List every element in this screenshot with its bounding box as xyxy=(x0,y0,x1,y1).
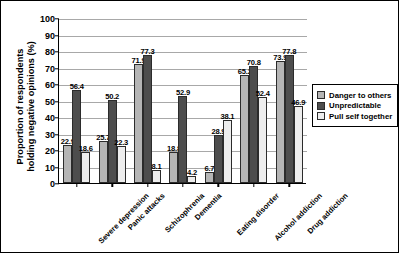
bar-group: 6.728.938.1 xyxy=(201,18,236,183)
legend-label: Danger to others xyxy=(329,91,391,100)
x-axis-tick-mark xyxy=(218,183,219,187)
bar-value-label: 38.1 xyxy=(220,112,234,121)
legend-label: Unpredictable xyxy=(329,101,381,110)
bar: 65.2 xyxy=(240,75,249,183)
bar-group: 71.977.38.1 xyxy=(130,18,165,183)
bar-value-label: 52.9 xyxy=(176,88,190,97)
x-axis-tick-mark xyxy=(289,183,290,187)
legend-item: Danger to others xyxy=(317,91,392,100)
bar: 18.6 xyxy=(81,152,90,183)
bar: 71.9 xyxy=(134,64,143,183)
x-axis-tick-mark xyxy=(111,183,112,187)
y-axis-tick-label: 10 xyxy=(45,163,55,173)
bar: 28.9 xyxy=(214,135,223,183)
bar: 8.1 xyxy=(152,170,161,183)
x-axis-tick-mark xyxy=(182,183,183,187)
bar: 46.9 xyxy=(294,106,303,183)
bar-value-label: 22.3 xyxy=(114,138,128,147)
y-axis-tick-label: 100 xyxy=(40,14,55,24)
y-axis-tick-mark xyxy=(55,183,59,184)
bar: 38.1 xyxy=(223,120,232,183)
bar: 70.8 xyxy=(249,66,258,183)
bar-value-label: 56.4 xyxy=(70,82,84,91)
bar: 73.9 xyxy=(276,61,285,183)
x-axis-tick-mark xyxy=(147,183,148,187)
bar: 77.8 xyxy=(285,55,294,183)
legend-item: Pull self together xyxy=(317,112,392,121)
bar: 52.4 xyxy=(258,97,267,183)
y-axis-tick-label: 90 xyxy=(45,31,55,41)
y-axis-title: Proportion of respondents holding negati… xyxy=(15,19,36,194)
bar-value-label: 8.1 xyxy=(152,162,162,171)
bar-value-label: 77.8 xyxy=(282,47,296,56)
bar: 56.4 xyxy=(72,90,81,183)
legend-swatch xyxy=(317,112,325,120)
x-axis-label: Eating disorder xyxy=(235,191,281,237)
bar-groups: 22.956.418.625.750.222.371.977.38.118.85… xyxy=(59,18,307,183)
x-axis-tick-mark xyxy=(76,183,77,187)
bar: 6.7 xyxy=(205,172,214,183)
legend-swatch xyxy=(317,102,325,110)
bar-value-label: 46.9 xyxy=(291,98,305,107)
y-axis-tick-label: 20 xyxy=(45,146,55,156)
y-axis-tick-label: 60 xyxy=(45,80,55,90)
legend: Danger to othersUnpredictablePull self t… xyxy=(312,84,398,127)
y-axis-tick-label: 40 xyxy=(45,113,55,123)
bar: 25.7 xyxy=(99,141,108,183)
bar-value-label: 70.8 xyxy=(247,58,261,67)
bar: 18.8 xyxy=(169,152,178,183)
bar-group: 18.852.94.2 xyxy=(165,18,200,183)
y-axis-tick-label: 80 xyxy=(45,47,55,57)
y-axis-tick-label: 50 xyxy=(45,97,55,107)
bar: 22.3 xyxy=(117,146,126,183)
bar-group: 73.977.846.9 xyxy=(272,18,307,183)
bar-group: 22.956.418.6 xyxy=(59,18,94,183)
bar-group: 25.750.222.3 xyxy=(94,18,129,183)
legend-item: Unpredictable xyxy=(317,101,392,110)
bar-value-label: 52.4 xyxy=(256,89,270,98)
bar-value-label: 77.3 xyxy=(141,47,155,56)
legend-swatch xyxy=(317,91,325,99)
y-axis-tick-label: 70 xyxy=(45,64,55,74)
bar-value-label: 50.2 xyxy=(105,92,119,101)
plot-area: 0102030405060708090100 22.956.418.625.75… xyxy=(58,19,306,184)
y-axis-tick-label: 30 xyxy=(45,130,55,140)
legend-label: Pull self together xyxy=(329,112,392,121)
bar-group: 65.270.852.4 xyxy=(236,18,271,183)
bar-value-label: 6.7 xyxy=(204,164,214,173)
chart-figure: Proportion of respondents holding negati… xyxy=(0,0,399,253)
bar: 22.9 xyxy=(63,145,72,183)
bar-value-label: 4.2 xyxy=(187,168,197,177)
bar: 4.2 xyxy=(187,176,196,183)
bar-value-label: 18.6 xyxy=(79,144,93,153)
x-axis-tick-mark xyxy=(253,183,254,187)
